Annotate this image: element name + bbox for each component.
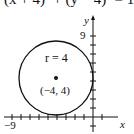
plot-area [0,0,134,134]
y-axis-arrow-icon [91,15,95,20]
x-axis-label: x [120,118,125,130]
y-tick-label: 9 [80,29,86,41]
radius-label: r = 4 [45,51,68,66]
center-label: (−4, 4) [40,84,70,96]
center-point [54,76,58,80]
x-tick-label: −9 [4,119,16,131]
y-axis-label: y [84,14,89,26]
